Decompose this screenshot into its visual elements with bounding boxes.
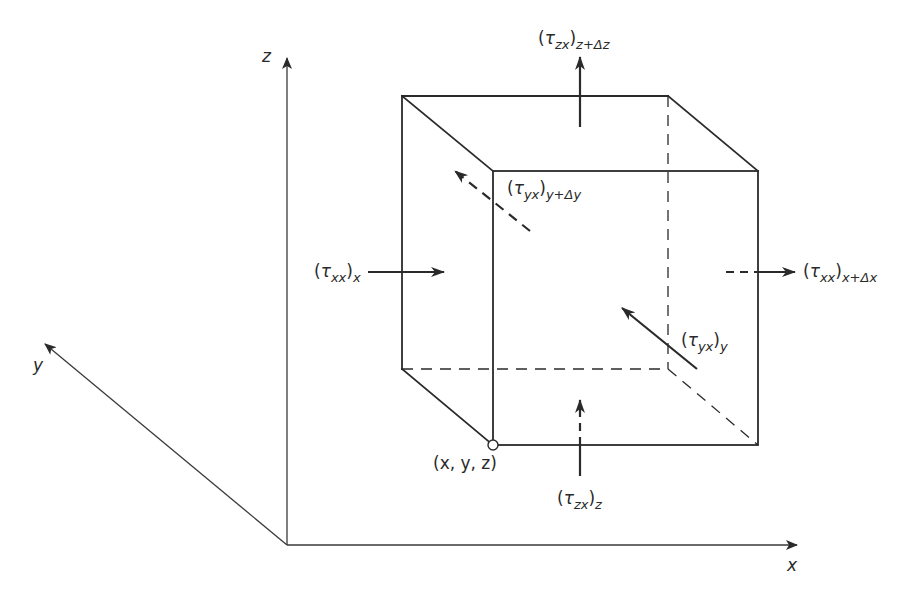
z-axis-label: z [262, 48, 271, 65]
corner-coordinate-label: (x, y, z) [433, 455, 497, 472]
label-tau-xx-x: (τxx)x [314, 263, 361, 280]
coordinate-axes [45, 58, 797, 545]
x-axis-label: x [787, 557, 797, 574]
cube-hidden-edges [402, 96, 758, 445]
cube-stress-diagram [0, 0, 909, 595]
label-tau-zx-z-plus-dz: (τzx)z+Δz [538, 30, 610, 47]
label-tau-zx-z: (τzx)z [557, 490, 602, 507]
cube-solid-edges [402, 96, 758, 445]
label-tau-yx-y: (τyx)y [681, 332, 728, 349]
y-axis-label: y [33, 357, 43, 374]
origin-corner-marker [488, 440, 498, 450]
label-tau-yx-y-plus-dy: (τyx)y+Δy [507, 180, 581, 197]
label-tau-xx-x-plus-dx: (τxx)x+Δx [803, 263, 877, 280]
y-axis [45, 344, 287, 545]
